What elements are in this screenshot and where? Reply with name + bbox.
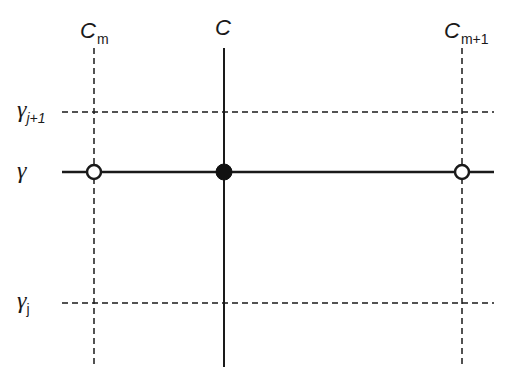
label-g-base: γ xyxy=(17,157,26,183)
label-gj1: γj+1 xyxy=(17,97,46,121)
open-point-cm1 xyxy=(455,165,469,179)
label-c: C xyxy=(215,17,231,39)
label-c-base: C xyxy=(215,15,231,40)
label-cm1: Cm+1 xyxy=(444,20,489,42)
diagram-canvas xyxy=(0,0,510,384)
filled-point-c xyxy=(216,164,232,180)
label-cm-base: C xyxy=(80,18,96,43)
open-point-cm xyxy=(87,165,101,179)
label-cm1-base: C xyxy=(444,18,460,43)
label-cm1-sub: m+1 xyxy=(461,31,489,47)
label-gj: γj xyxy=(17,288,30,312)
label-g: γ xyxy=(17,158,26,182)
label-gj1-sub: j+1 xyxy=(26,110,45,126)
label-cm: Cm xyxy=(80,20,109,42)
label-cm-sub: m xyxy=(97,31,109,47)
label-gj-sub: j xyxy=(26,301,29,317)
